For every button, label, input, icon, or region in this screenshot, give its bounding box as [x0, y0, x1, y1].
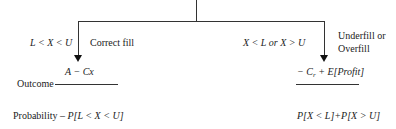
- incorrect-fill-label-line1: Underfill or: [338, 30, 386, 42]
- incorrect-fill-outcome: − Cr + E[Profit]: [297, 66, 364, 81]
- outcome-prefix: − C: [297, 66, 313, 77]
- root-stem-line: [196, 0, 197, 21]
- right-outcome-underline: [296, 84, 359, 85]
- left-outcome-underline: [55, 84, 118, 85]
- right-branch-line: [324, 21, 325, 55]
- left-arrow-icon: [74, 55, 82, 62]
- incorrect-fill-label-line2: Overfill: [338, 43, 370, 55]
- incorrect-fill-condition: X < L or X > U: [243, 37, 305, 49]
- correct-fill-probability: Probability – P[L < X < U]: [13, 110, 124, 122]
- branch-horizontal-line: [78, 21, 325, 22]
- incorrect-fill-probability: P[X < L]+P[X > U]: [297, 110, 380, 122]
- correct-fill-condition: L < X < U: [30, 37, 72, 49]
- correct-fill-label: Correct fill: [90, 37, 134, 49]
- outcome-suffix: + E[Profit]: [316, 66, 365, 77]
- correct-fill-outcome: A − Cx: [65, 66, 94, 78]
- correct-fill-probability-value: P[L < X < U]: [67, 110, 123, 121]
- right-arrow-icon: [320, 55, 328, 62]
- probability-row-label: Probability –: [13, 110, 67, 121]
- left-branch-line: [78, 21, 79, 55]
- outcome-row-label: Outcome: [17, 78, 54, 90]
